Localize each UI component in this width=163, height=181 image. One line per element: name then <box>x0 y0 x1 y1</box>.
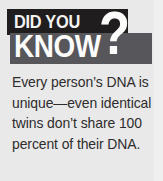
callout-body: Every person’s DNA is unique—even identi… <box>12 72 154 154</box>
body-line: unique—even identical <box>12 93 144 114</box>
body-line: percent of their DNA. <box>12 134 144 155</box>
callout-header: DID YOU KNOW ? <box>0 0 163 70</box>
did-you-know-callout: DID YOU KNOW ? Every person’s DNA is uni… <box>0 0 163 181</box>
question-mark-icon: ? <box>99 2 130 64</box>
body-line: Every person’s DNA is <box>12 72 144 93</box>
body-line: twins don’t share 100 <box>12 113 144 134</box>
headline-know: KNOW <box>14 31 101 63</box>
